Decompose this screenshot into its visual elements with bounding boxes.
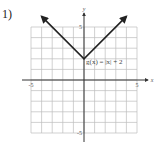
function-label: g(x) = |x| + 2	[86, 58, 123, 66]
y-axis-label: y	[82, 6, 86, 12]
y-tick-label-max: 5	[79, 24, 82, 30]
x-tick-label-max: 5	[136, 82, 139, 88]
x-tick-label-min: -5	[29, 82, 34, 88]
x-axis-label: x	[150, 77, 154, 83]
labels: -5 5 5 -5 x y g(x) = |x| + 2	[29, 6, 154, 136]
graph-chart: -5 5 5 -5 x y g(x) = |x| + 2	[0, 0, 157, 146]
y-tick-label-min: -5	[77, 130, 82, 136]
